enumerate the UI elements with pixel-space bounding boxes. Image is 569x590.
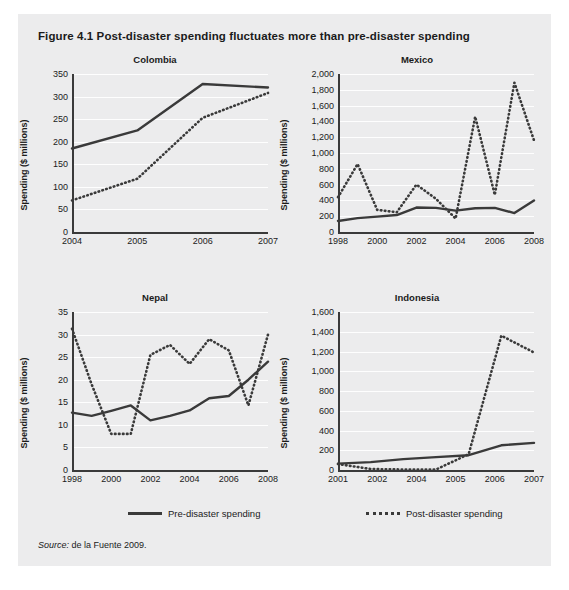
y-axis-tick: 600 (319, 180, 334, 190)
series-line-pre-disaster (72, 84, 268, 149)
y-axis-tick: 200 (319, 211, 334, 221)
x-axis-tick: 1998 (328, 236, 348, 246)
y-axis-tick: 1,200 (311, 347, 334, 357)
y-axis-tick: 15 (58, 397, 68, 407)
x-axis-tick: 2006 (485, 236, 505, 246)
legend: Pre-disaster spending Post-disaster spen… (18, 506, 551, 528)
source-text: de la Fuente 2009. (72, 540, 147, 550)
series-line-post-disaster (72, 329, 268, 434)
x-axis-tick: 2005 (127, 236, 147, 246)
y-axis-tick: 5 (63, 442, 68, 452)
y-axis-tick: 350 (53, 69, 68, 79)
y-axis-tick: 1,600 (311, 307, 334, 317)
x-axis-tick: 2002 (406, 236, 426, 246)
y-axis-tick: 300 (53, 92, 68, 102)
series-layer (338, 74, 534, 232)
x-axis-tick: 2000 (101, 474, 121, 484)
chart-panel-colombia: Colombia Spending ($ millions) 050100150… (26, 54, 284, 276)
chart-panel-nepal: Nepal Spending ($ millions) 051015202530… (26, 292, 284, 514)
x-axis-tick: 1998 (62, 474, 82, 484)
series-line-post-disaster (338, 83, 534, 219)
y-axis-tick: 50 (58, 204, 68, 214)
series-line-pre-disaster (338, 443, 534, 464)
plot-area-indonesia: 02004006008001,0001,2001,4001,6002001200… (338, 312, 534, 470)
y-axis-tick: 250 (53, 114, 68, 124)
y-axis-tick: 35 (58, 307, 68, 317)
x-axis-tick: 2008 (258, 474, 278, 484)
y-axis-tick: 10 (58, 420, 68, 430)
y-axis-tick: 800 (319, 386, 334, 396)
source-note: Source: de la Fuente 2009. (38, 540, 147, 550)
source-label: Source: (38, 540, 69, 550)
y-axis-tick: 1,000 (311, 366, 334, 376)
legend-label-pre-disaster: Pre-disaster spending (168, 508, 260, 519)
x-axis-tick: 2008 (524, 236, 544, 246)
x-axis-line (338, 470, 534, 472)
x-axis-tick: 2006 (485, 474, 505, 484)
chart-panel-indonesia: Indonesia Spending ($ millions) 02004006… (286, 292, 548, 514)
y-axis-tick: 600 (319, 406, 334, 416)
series-line-pre-disaster (338, 200, 534, 221)
plot-area-colombia: 0501001502002503003502004200520062007 (72, 74, 268, 232)
y-axis-tick: 400 (319, 426, 334, 436)
x-axis-line (338, 232, 534, 234)
y-axis-tick: 100 (53, 182, 68, 192)
figure-panel: Figure 4.1 Post-disaster spending fluctu… (18, 14, 551, 566)
x-axis-tick: 2004 (180, 474, 200, 484)
legend-swatch-dotted-icon (366, 512, 400, 515)
y-axis-tick: 20 (58, 375, 68, 385)
series-layer (72, 74, 268, 232)
plot-area-nepal: 05101520253035199820002002200420062008 (72, 312, 268, 470)
y-axis-label-nepal: Spending ($ millions) (19, 312, 29, 403)
x-axis-tick: 2001 (328, 474, 348, 484)
series-line-post-disaster (72, 93, 268, 200)
y-axis-tick: 1,400 (311, 116, 334, 126)
y-axis-tick: 1,200 (311, 132, 334, 142)
x-axis-tick: 2004 (62, 236, 82, 246)
y-axis-tick: 30 (58, 330, 68, 340)
chart-title-indonesia: Indonesia (286, 292, 548, 303)
x-axis-line (72, 232, 268, 234)
chart-title-colombia: Colombia (26, 54, 284, 65)
x-axis-tick: 2007 (524, 474, 544, 484)
y-axis-label-colombia: Spending ($ millions) (19, 74, 29, 165)
charts-grid: Colombia Spending ($ millions) 050100150… (18, 50, 551, 500)
y-axis-tick: 1,400 (311, 327, 334, 337)
legend-item-post-disaster: Post-disaster spending (366, 508, 503, 519)
x-axis-tick: 2002 (367, 474, 387, 484)
legend-swatch-solid-icon (128, 512, 162, 515)
y-axis-tick: 2,000 (311, 69, 334, 79)
y-axis-tick: 400 (319, 195, 334, 205)
y-axis-tick: 1,800 (311, 85, 334, 95)
series-layer (72, 312, 268, 470)
y-axis-tick: 1,000 (311, 148, 334, 158)
y-axis-tick: 800 (319, 164, 334, 174)
y-axis-tick: 150 (53, 159, 68, 169)
x-axis-tick: 2005 (446, 474, 466, 484)
series-line-post-disaster (338, 336, 534, 470)
plot-area-mexico: 02004006008001,0001,2001,4001,6001,8002,… (338, 74, 534, 232)
x-axis-tick: 2006 (193, 236, 213, 246)
y-axis-label-mexico: Spending ($ millions) (279, 74, 289, 165)
chart-panel-mexico: Mexico Spending ($ millions) 02004006008… (286, 54, 548, 276)
x-axis-tick: 2000 (367, 236, 387, 246)
y-axis-tick: 200 (53, 137, 68, 147)
series-layer (338, 312, 534, 470)
y-axis-tick: 200 (319, 445, 334, 455)
x-axis-tick: 2004 (446, 236, 466, 246)
y-axis-tick: 1,600 (311, 101, 334, 111)
x-axis-tick: 2004 (406, 474, 426, 484)
x-axis-tick: 2006 (219, 474, 239, 484)
chart-title-nepal: Nepal (26, 292, 284, 303)
y-axis-label-indonesia: Spending ($ millions) (279, 312, 289, 403)
x-axis-line (72, 470, 268, 472)
y-axis-tick: 25 (58, 352, 68, 362)
legend-item-pre-disaster: Pre-disaster spending (128, 508, 260, 519)
x-axis-tick: 2002 (140, 474, 160, 484)
figure-title: Figure 4.1 Post-disaster spending fluctu… (38, 30, 470, 42)
x-axis-tick: 2007 (258, 236, 278, 246)
chart-title-mexico: Mexico (286, 54, 548, 65)
legend-label-post-disaster: Post-disaster spending (406, 508, 503, 519)
